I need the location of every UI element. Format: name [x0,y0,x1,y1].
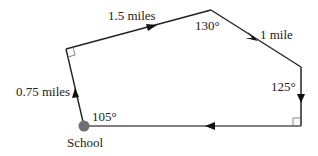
angle-label-105: 105° [92,110,117,123]
route-diagram: 1.5 miles 130° 1 mile 125° 0.75 miles 10… [0,0,318,156]
arrow-left-icon [205,122,215,130]
right-angle-mark-v4 [293,118,301,126]
leg-label-0-75-miles: 0.75 miles [16,85,70,98]
leg-label-1-mile: 1 mile [260,28,293,41]
angle-label-130: 130° [195,19,220,32]
school-marker-icon [79,121,90,132]
route-diagram-svg [0,0,318,156]
angle-label-125: 125° [271,80,296,93]
leg-label-1-5-miles: 1.5 miles [108,9,156,22]
arrow-up-icon [72,88,79,98]
arrow-down-icon [297,94,305,103]
school-label: School [67,136,103,149]
arrow-right-icon [146,24,157,31]
